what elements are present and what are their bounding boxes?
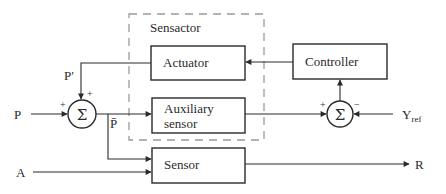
controller-label: Controller	[305, 54, 359, 69]
sensor-block: Sensor	[152, 148, 245, 183]
actuator-label: Actuator	[163, 55, 209, 70]
p-bar-label: P̄	[110, 116, 117, 131]
block-diagram: Sensactor Actuator Auxiliary sensor Sens…	[0, 0, 446, 194]
auxiliary-sensor-label-line2: sensor	[164, 116, 198, 131]
sensor-label: Sensor	[164, 157, 200, 172]
controller-block: Controller	[293, 44, 387, 79]
sigma-symbol: Σ	[335, 106, 346, 124]
left-summing-junction: Σ + +	[60, 88, 96, 128]
minus-sign-right: −	[354, 99, 360, 110]
auxiliary-sensor-label-line1: Auxiliary	[164, 101, 214, 116]
p-prime-label: P′	[64, 68, 74, 83]
sigma-symbol: Σ	[77, 106, 88, 124]
a-input-label: A	[16, 165, 26, 180]
plus-sign-top: +	[87, 88, 93, 99]
plus-sign-left: +	[60, 99, 66, 110]
y-ref-label: Yref	[402, 107, 421, 124]
r-output-label: R	[415, 157, 424, 172]
plus-sign-left: +	[320, 99, 326, 110]
right-summing-junction: Σ + −	[320, 99, 360, 127]
auxiliary-sensor-block: Auxiliary sensor	[152, 98, 245, 133]
actuator-block: Actuator	[151, 46, 245, 80]
sensactor-label: Sensactor	[150, 20, 201, 35]
p-input-label: P	[14, 107, 21, 122]
